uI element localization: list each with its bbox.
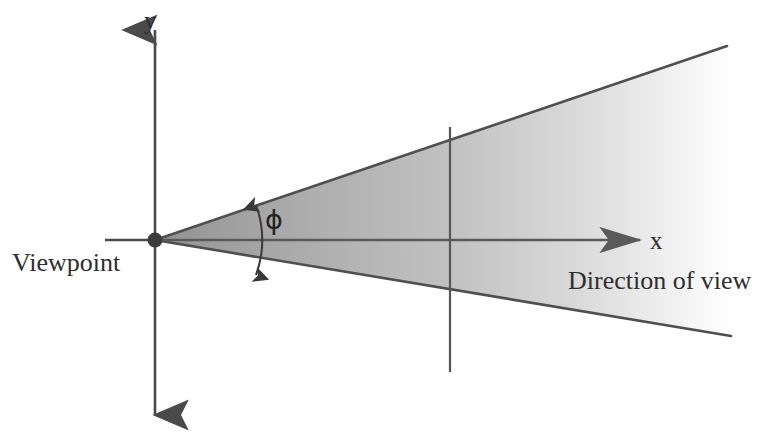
y-axis-label: y [144,8,157,33]
diagram-svg [0,0,780,447]
figure-canvas: y x Viewpoint Direction of view ϕ [0,0,780,447]
direction-of-view-label: Direction of view [568,268,751,294]
origin-dot [148,233,163,248]
viewpoint-label: Viewpoint [12,250,120,276]
angle-phi-label: ϕ [265,206,283,233]
x-axis-label: x [650,228,663,253]
